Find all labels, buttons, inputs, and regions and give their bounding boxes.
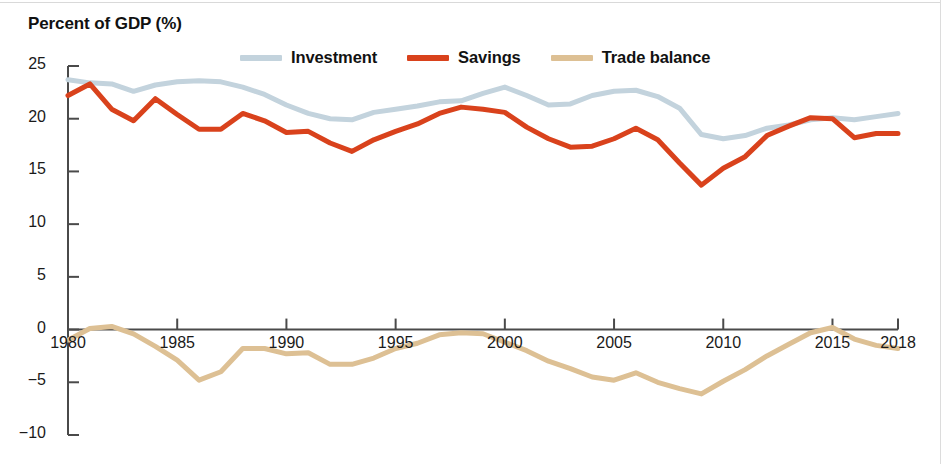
x-tick-label-2015: 2015 [797,334,867,352]
x-tick-label-1985: 1985 [142,334,212,352]
plot-svg [0,0,941,464]
y-tick-label-20: 20 [0,108,46,126]
figure-chart-savings-investment: Percent of GDP (%) InvestmentSavingsTrad… [0,0,941,464]
y-tick-label-25: 25 [0,55,46,73]
x-tick-label-2018: 2018 [863,334,933,352]
x-tick-label-1995: 1995 [361,334,431,352]
y-tick-label--10: −10 [0,424,46,442]
x-tick-label-2005: 2005 [579,334,649,352]
x-tick-label-1990: 1990 [251,334,321,352]
y-tick-label-5: 5 [0,266,46,284]
y-tick-label-10: 10 [0,213,46,231]
y-tick-label-15: 15 [0,160,46,178]
series-line-savings [68,84,898,185]
plot-area: 2520151050−5−101980198519901995200020052… [0,0,941,464]
x-tick-label-2010: 2010 [688,334,758,352]
y-tick-label--5: −5 [0,371,46,389]
x-tick-label-1980: 1980 [33,334,103,352]
x-tick-label-2000: 2000 [470,334,540,352]
